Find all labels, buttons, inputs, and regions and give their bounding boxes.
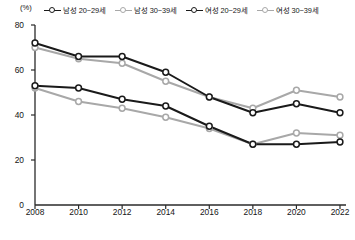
- x-axis-tick-label: 2012: [102, 207, 142, 217]
- x-axis-tick-label: 2018: [233, 207, 273, 217]
- y-axis-tick-label: 40: [2, 110, 24, 120]
- line-chart: (%) 남성 20~29세 남성 30~39세 여성 20~29세: [0, 0, 355, 240]
- x-axis-tick-label: 2010: [59, 207, 99, 217]
- y-axis-tick-label: 60: [2, 65, 24, 75]
- chart-axes: [35, 25, 346, 205]
- x-axis-tick-label: 2008: [15, 207, 55, 217]
- x-axis-tick-label: 2014: [146, 207, 186, 217]
- plot-area: [0, 0, 355, 240]
- y-axis-tick-label: 80: [2, 20, 24, 30]
- x-axis-tick-label: 2020: [276, 207, 316, 217]
- x-axis-tick-label: 2016: [189, 207, 229, 217]
- y-axis-tick-label: 20: [2, 155, 24, 165]
- x-axis-tick-label: 2022: [320, 207, 355, 217]
